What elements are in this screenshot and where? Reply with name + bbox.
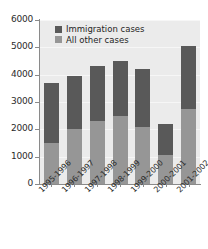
y-tick-mark [35, 47, 39, 48]
legend-item-other: All other cases [55, 36, 144, 45]
bar-segment-other [44, 143, 59, 184]
y-tick-label: 2000 [11, 123, 33, 133]
bar-segment-immigration [44, 83, 59, 143]
bar-segment-other [181, 109, 196, 184]
y-tick-label: 6000 [11, 14, 33, 24]
chart-legend: Immigration cases All other cases [55, 25, 144, 44]
bar-1997-1998 [90, 66, 105, 184]
y-tick-mark [35, 20, 39, 21]
bar-segment-immigration [113, 61, 128, 116]
y-tick-label: 0 [27, 178, 33, 188]
bar-2000-2001 [158, 124, 173, 184]
bar-2001-2002 [181, 46, 196, 184]
legend-swatch-other-icon [55, 36, 62, 43]
bar-1998-1999 [113, 61, 128, 184]
bar-segment-other [90, 121, 105, 184]
legend-item-immigration: Immigration cases [55, 25, 144, 34]
legend-swatch-immigration-icon [55, 26, 62, 33]
gridline [40, 47, 200, 48]
legend-label-other: All other cases [66, 36, 129, 45]
bar-segment-other [113, 116, 128, 184]
y-axis-tick-labels: 0100020003000400050006000 [0, 0, 33, 249]
bar-1995-1996 [44, 83, 59, 184]
bar-segment-other [158, 155, 173, 184]
y-tick-label: 1000 [11, 151, 33, 161]
chart-figure: 0100020003000400050006000 1995-19961996-… [0, 0, 208, 249]
y-tick-label: 3000 [11, 96, 33, 106]
bar-segment-other [135, 127, 150, 184]
y-tick-mark [35, 184, 39, 185]
bar-segment-immigration [90, 66, 105, 121]
legend-label-immigration: Immigration cases [66, 25, 144, 34]
y-axis-line [39, 19, 40, 185]
bar-segment-immigration [181, 46, 196, 109]
y-tick-mark [35, 75, 39, 76]
bar-segment-immigration [158, 124, 173, 155]
x-axis-line [39, 184, 201, 185]
gridline [40, 20, 200, 21]
y-tick-mark [35, 102, 39, 103]
bar-segment-immigration [67, 76, 82, 129]
y-tick-label: 5000 [11, 41, 33, 51]
y-tick-label: 4000 [11, 69, 33, 79]
bar-1999-2000 [135, 69, 150, 184]
y-tick-mark [35, 157, 39, 158]
bar-segment-other [67, 129, 82, 184]
bar-1996-1997 [67, 76, 82, 184]
y-tick-mark [35, 129, 39, 130]
bar-segment-immigration [135, 69, 150, 126]
